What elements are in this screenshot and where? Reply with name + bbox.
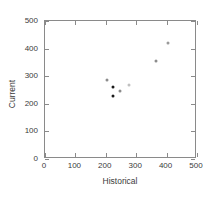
y-axis-tick-label: 400 — [0, 43, 38, 52]
x-axis-tick-label: 500 — [189, 161, 202, 170]
x-axis-tick — [106, 21, 107, 25]
x-axis-tick — [106, 153, 107, 157]
y-axis-tick-label: 300 — [0, 71, 38, 80]
y-axis-tick — [191, 76, 195, 77]
x-axis-tick-label: 0 — [42, 161, 46, 170]
data-point — [154, 60, 157, 63]
x-axis-tick-label: 300 — [129, 161, 142, 170]
x-axis-tick-label: 200 — [98, 161, 111, 170]
x-axis-tick — [75, 21, 76, 25]
y-axis-tick — [45, 104, 49, 105]
x-axis-tick-label: 100 — [68, 161, 81, 170]
x-axis-tick — [167, 153, 168, 157]
y-axis-tick-label: 500 — [0, 16, 38, 25]
x-axis-tick — [136, 21, 137, 25]
data-point — [119, 90, 122, 93]
data-point — [106, 79, 109, 82]
plot-area — [44, 20, 196, 158]
x-axis-title: Historical — [44, 176, 196, 186]
x-axis-tick — [197, 21, 198, 25]
scatter-chart: Current Historical 010020030040050001002… — [0, 0, 215, 203]
y-axis-tick — [45, 21, 49, 22]
x-axis-tick — [167, 21, 168, 25]
data-point — [112, 85, 115, 88]
y-axis-tick — [45, 159, 49, 160]
y-axis-tick — [45, 49, 49, 50]
y-axis-tick-label: 200 — [0, 98, 38, 107]
data-point — [112, 95, 115, 98]
x-axis-tick — [45, 153, 46, 157]
data-point — [167, 42, 170, 45]
x-axis-tick — [75, 153, 76, 157]
y-axis-tick — [191, 159, 195, 160]
y-axis-tick — [45, 131, 49, 132]
y-axis-tick-label: 100 — [0, 126, 38, 135]
y-axis-tick — [191, 104, 195, 105]
y-axis-tick — [191, 131, 195, 132]
x-axis-tick — [136, 153, 137, 157]
x-axis-tick-label: 400 — [159, 161, 172, 170]
y-axis-tick — [191, 49, 195, 50]
y-axis-tick-label: 0 — [0, 154, 38, 163]
x-axis-tick — [197, 153, 198, 157]
y-axis-tick — [191, 21, 195, 22]
data-point — [127, 84, 130, 87]
y-axis-tick — [45, 76, 49, 77]
y-axis-title: Current — [7, 58, 17, 130]
